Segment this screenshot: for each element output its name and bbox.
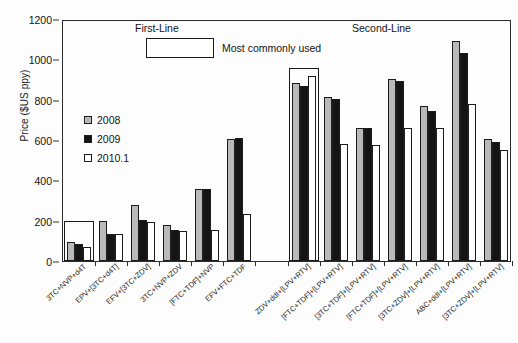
bar[interactable]	[356, 128, 364, 261]
bar[interactable]	[308, 76, 316, 261]
bar[interactable]	[195, 189, 203, 261]
bar-group	[416, 21, 448, 261]
bar-group	[480, 21, 512, 261]
bar-group	[320, 21, 352, 261]
y-axis-tick-mark	[53, 60, 59, 61]
legend-swatch	[84, 135, 92, 143]
bar[interactable]	[436, 128, 444, 261]
legend-label: 2010.1	[97, 152, 129, 164]
bar[interactable]	[243, 214, 251, 261]
y-axis-tick-mark	[53, 221, 59, 222]
x-axis-tick-label: [3TC+ZDV]+[LPV+RTV]	[376, 262, 441, 321]
bar[interactable]	[67, 242, 75, 261]
x-axis-tick-label: [3TC+ZDV]+[LPV+RTV]	[440, 262, 505, 321]
y-axis-tick-mark	[53, 141, 59, 142]
bar[interactable]	[171, 230, 179, 261]
bar[interactable]	[227, 139, 235, 261]
x-axis-tick-label: ABC+ddI+[LPV+RTV]	[414, 262, 473, 316]
y-axis-tick-mark	[53, 181, 59, 182]
legend-label: 2008	[97, 114, 120, 126]
bar-group	[352, 21, 384, 261]
bar[interactable]	[484, 139, 492, 261]
bar[interactable]	[340, 144, 348, 261]
bar[interactable]	[372, 145, 380, 261]
bar[interactable]	[452, 41, 460, 261]
bar[interactable]	[115, 234, 123, 261]
x-axis-tick-label: [3TC+TDF]+[LPV+RTV]	[312, 262, 376, 321]
bar[interactable]	[300, 86, 308, 261]
y-axis-tick-label: 200	[34, 216, 52, 228]
bar[interactable]	[404, 128, 412, 261]
bar-group	[448, 21, 480, 261]
bar[interactable]	[131, 205, 139, 261]
bar[interactable]	[99, 221, 107, 261]
bar[interactable]	[500, 150, 508, 261]
series-legend: 200820092010.1	[84, 112, 129, 169]
x-axis-labels: 3TC+NVP+d4TEPV+[3TC+d4T]EFV+[3TC+ZDV]3TC…	[62, 262, 511, 343]
bar[interactable]	[420, 106, 428, 261]
bar[interactable]	[428, 111, 436, 261]
bar[interactable]	[388, 79, 396, 262]
bar-series-container	[63, 21, 510, 261]
bar[interactable]	[396, 81, 404, 261]
chart-page: Price ($US ppy) 120010008006004002000 3T…	[0, 0, 518, 343]
bar[interactable]	[324, 97, 332, 261]
bar[interactable]	[147, 222, 155, 261]
bar-group	[223, 21, 255, 261]
bar[interactable]	[179, 231, 187, 261]
bar[interactable]	[492, 142, 500, 261]
x-axis-tick-label: ZDV+ddI+[LPV+RTV]	[254, 262, 313, 316]
y-axis-tick-label: 600	[34, 135, 52, 147]
annotation-first-line: First-Line	[135, 22, 179, 34]
legend-label: 2009	[97, 133, 120, 145]
bar[interactable]	[75, 244, 83, 261]
most-commonly-used-box-swatch	[146, 38, 214, 58]
bar[interactable]	[163, 225, 171, 261]
annotation-second-line: Second-Line	[352, 22, 411, 34]
bar-group	[384, 21, 416, 261]
bar[interactable]	[203, 189, 211, 261]
bar[interactable]	[364, 128, 372, 261]
legend-item[interactable]: 2008	[84, 112, 129, 127]
plot-area	[62, 20, 511, 262]
legend-swatch	[84, 116, 92, 124]
bar[interactable]	[235, 138, 243, 261]
bar-group	[288, 21, 320, 261]
x-axis-tick-label: [FTC+TDF]+[LPV+RTV]	[344, 262, 409, 321]
bar[interactable]	[83, 247, 91, 261]
x-axis-tick-label: [FTC+TDF]+[LPV+RTV]	[280, 262, 345, 321]
bar[interactable]	[332, 99, 340, 261]
legend-swatch	[84, 154, 92, 162]
bar[interactable]	[139, 220, 147, 261]
y-axis-tick-mark	[53, 20, 59, 21]
y-axis-tick-label: 400	[34, 175, 52, 187]
y-axis-tick-mark	[53, 100, 59, 101]
bar-group	[255, 21, 287, 261]
bar[interactable]	[468, 104, 476, 261]
bar[interactable]	[460, 53, 468, 261]
y-axis-tick-label: 1200	[29, 14, 52, 26]
y-axis-tick-label: 0	[46, 256, 52, 268]
x-axis-tick-mark	[512, 261, 513, 266]
bar[interactable]	[107, 234, 115, 261]
y-axis-tick-label: 1000	[29, 54, 52, 66]
annotation-most-commonly-used: Most commonly used	[222, 42, 321, 54]
y-axis-tick-label: 800	[34, 95, 52, 107]
bar[interactable]	[292, 83, 300, 261]
bar[interactable]	[211, 230, 219, 261]
legend-item[interactable]: 2009	[84, 131, 129, 146]
y-axis-tick-mark	[53, 262, 59, 263]
legend-item[interactable]: 2010.1	[84, 150, 129, 165]
